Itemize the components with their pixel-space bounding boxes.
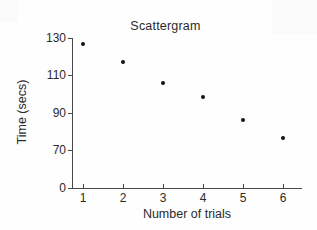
- y-axis-tick-label: 70: [30, 143, 66, 157]
- x-axis-tick: [163, 184, 164, 189]
- scattergram-figure: Scattergram 13011090700 123456 Number of…: [0, 0, 317, 230]
- y-axis-tick-labels: 13011090700: [26, 0, 66, 230]
- y-axis-tick: [68, 150, 73, 151]
- data-point: [161, 81, 165, 85]
- data-point: [281, 136, 285, 140]
- y-axis-tick: [68, 188, 73, 189]
- y-axis-tick: [68, 38, 73, 39]
- y-axis-title: Time (secs): [15, 80, 29, 145]
- x-axis-tick: [243, 184, 244, 189]
- y-axis-tick: [68, 113, 73, 114]
- x-axis-tick: [283, 184, 284, 189]
- x-axis-tick-label: 1: [71, 191, 95, 205]
- y-axis-tick-label: 110: [30, 68, 66, 82]
- x-axis-tick-label: 5: [231, 191, 255, 205]
- data-point: [241, 118, 245, 122]
- x-axis-tick: [83, 184, 84, 189]
- y-axis-tick: [68, 75, 73, 76]
- x-axis-tick-label: 6: [271, 191, 295, 205]
- x-axis-tick: [203, 184, 204, 189]
- data-point: [121, 60, 125, 64]
- y-axis-tick-label: 90: [30, 106, 66, 120]
- x-axis-title: Number of trials: [72, 207, 302, 221]
- x-axis-tick: [123, 184, 124, 189]
- x-axis-tick-label: 3: [151, 191, 175, 205]
- x-axis-line: [72, 188, 302, 189]
- y-axis-tick-label: 0: [30, 181, 66, 195]
- x-axis-tick-label: 4: [191, 191, 215, 205]
- data-point: [201, 95, 205, 99]
- x-axis-tick-label: 2: [111, 191, 135, 205]
- y-axis-tick-label: 130: [30, 31, 66, 45]
- data-point: [81, 42, 85, 46]
